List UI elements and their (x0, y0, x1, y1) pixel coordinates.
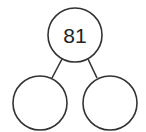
number-bond-canvas: 81 (0, 0, 146, 132)
part-circle-left[interactable] (13, 76, 67, 130)
part-circle-right[interactable] (83, 76, 137, 130)
connector-line-right (88, 59, 97, 78)
whole-value: 81 (63, 24, 86, 47)
number-bond-diagram: 81 (0, 0, 146, 132)
connector-line-left (52, 59, 62, 78)
